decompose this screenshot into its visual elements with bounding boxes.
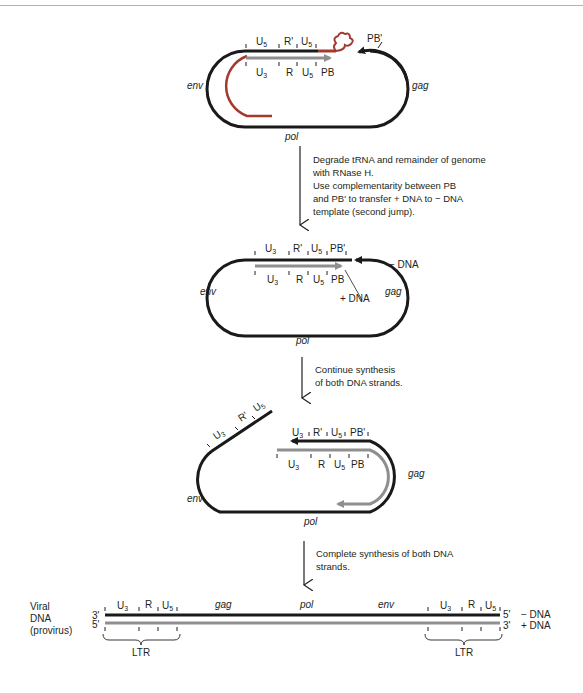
label-gag: gag [385, 286, 402, 297]
label-r: R [286, 67, 293, 78]
gene-env: env [378, 599, 395, 610]
step-1-line-4: and PB' to transfer + DNA to − DNA [313, 192, 486, 205]
label-gag: gag [408, 468, 425, 479]
label-minus-dna: − DNA [389, 259, 419, 270]
label-u3: U3 [267, 274, 278, 286]
label-r: R [296, 274, 303, 285]
label-minus-dna: − DNA [521, 609, 551, 620]
label-plus-dna: + DNA [340, 293, 370, 304]
gene-gag: gag [215, 599, 232, 610]
ltr-right-label: LTR [455, 647, 473, 658]
right-end-3prime: 3' [503, 620, 511, 631]
ltr-right-u3: U3 [440, 600, 451, 612]
right-end-5prime: 5' [503, 609, 511, 620]
step-1-line-3: Use complementarity between PB [313, 179, 486, 192]
label-u5-prime: U5 [311, 243, 322, 255]
label-u5-prime-b: U5 [301, 36, 312, 48]
label-pb-prime: PB' [330, 243, 345, 254]
panel-4-provirus: Viral DNA (provirus) 3' 5' 5' 3' − DNA +… [30, 599, 551, 658]
step-3-caption: Complete synthesis of both DNA strands. [316, 547, 453, 573]
label-env: env [187, 493, 204, 504]
step-1-caption: Degrade tRNA and remainder of genome wit… [313, 153, 486, 218]
provirus-label-line2: DNA [30, 613, 51, 624]
panel-2-second-jump: U3 R' U5 PB' U3 R U5 PB − DNA + DNA env … [200, 243, 419, 346]
label-u3-prime-diag: U3 [211, 426, 227, 442]
panel-1-strand-transfer: U5 R' U5 U3 R U5 PB PB' env gag pol [187, 33, 429, 142]
step-3-line-2: strands. [316, 560, 453, 573]
label-r-prime: R' [293, 243, 302, 254]
label-gag: gag [412, 80, 429, 91]
label-env: env [187, 80, 204, 91]
label-u5-prime-a: U5 [256, 36, 267, 48]
pb-prime-arrow [359, 50, 407, 80]
ltr-left-brace [103, 634, 180, 645]
ltr-right-r: R [468, 599, 475, 610]
step-2-line-2: of both DNA strands. [315, 376, 403, 389]
ltr-left-r: R [145, 599, 152, 610]
step-3-line-1: Complete synthesis of both DNA [316, 547, 453, 560]
label-u3-prime: U3 [292, 427, 303, 439]
ltr-left-u5: U5 [162, 600, 173, 612]
ltr-left-label: LTR [132, 647, 150, 658]
label-pb: PB [331, 274, 345, 285]
label-u3-prime: U3 [265, 243, 276, 255]
label-pol: pol [295, 335, 310, 346]
label-u5-prime-diag: U5 [251, 398, 267, 414]
step-1-line-2: with RNase H. [313, 166, 486, 179]
label-r-prime-diag: R' [236, 409, 250, 423]
label-r-prime: R' [284, 36, 293, 47]
label-u5: U5 [313, 274, 324, 286]
label-u3: U3 [256, 67, 267, 79]
reverse-transcription-diagram: U5 R' U5 U3 R U5 PB PB' env gag pol U3 R… [0, 0, 583, 693]
step-1-line-5: template (second jump). [313, 205, 486, 218]
step-2-line-1: Continue synthesis [315, 363, 403, 376]
rna-remnant [226, 56, 272, 116]
panel-3-continue-synthesis: U3 R' U5 U3 R' U5 PB' U3 R U5 PB env gag… [187, 398, 425, 527]
label-r: R [318, 459, 325, 470]
ltr-left-u3: U3 [117, 600, 128, 612]
ltr-right-brace [425, 634, 502, 645]
label-u5: U5 [334, 459, 345, 471]
label-pb-prime: PB' [350, 427, 365, 438]
label-r-prime: R' [313, 427, 322, 438]
label-u5: U5 [302, 67, 313, 79]
trna-cloverleaf-icon [334, 33, 353, 51]
label-pb-prime: PB' [367, 33, 382, 44]
step-1-line-1: Degrade tRNA and remainder of genome [313, 153, 486, 166]
step-2-caption: Continue synthesis of both DNA strands. [315, 363, 403, 389]
label-env: env [200, 286, 217, 297]
provirus-label-line1: Viral [30, 601, 50, 612]
gene-pol: pol [299, 599, 314, 610]
provirus-label-line3: (provirus) [30, 625, 72, 636]
label-u3: U3 [288, 459, 299, 471]
ltr-right-u5: U5 [485, 600, 496, 612]
label-pb: PB [351, 459, 365, 470]
left-end-5prime: 5' [92, 619, 100, 630]
label-pb: PB [321, 67, 335, 78]
label-pol: pol [284, 131, 299, 142]
label-u5-prime: U5 [331, 427, 342, 439]
label-plus-dna: + DNA [521, 620, 551, 631]
label-pol: pol [303, 516, 318, 527]
